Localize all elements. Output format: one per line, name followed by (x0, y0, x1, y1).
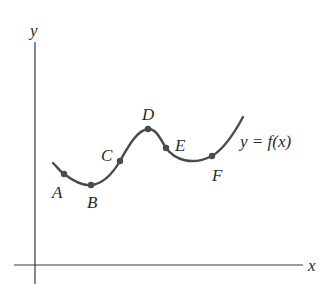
point-f-label: F (211, 166, 223, 185)
point-b-marker (88, 182, 94, 188)
x-axis-label: x (307, 256, 316, 275)
point-labels: A B C D E F (51, 105, 223, 212)
point-f-marker (209, 153, 215, 159)
function-graph-figure: y x A B C D E F y = f(x) (0, 0, 330, 291)
point-b-label: B (87, 193, 98, 212)
point-c-label: C (101, 146, 113, 165)
point-d-marker (145, 126, 151, 132)
y-axis-label: y (28, 21, 38, 40)
point-e-marker (163, 145, 169, 151)
graph-canvas: y x A B C D E F y = f(x) (0, 0, 330, 291)
point-d-label: D (141, 105, 155, 124)
curve-equation-label: y = f(x) (238, 132, 291, 151)
point-c-marker (117, 158, 123, 164)
point-a-label: A (51, 183, 63, 202)
point-e-label: E (174, 136, 186, 155)
point-a-marker (61, 171, 67, 177)
